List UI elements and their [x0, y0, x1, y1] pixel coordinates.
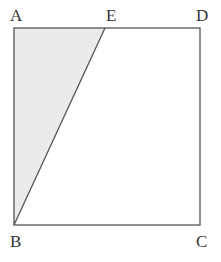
- vertex-label-c: C: [196, 233, 207, 250]
- geometry-figure: A E D B C: [0, 0, 221, 262]
- figure-canvas: [0, 0, 221, 262]
- vertex-label-e: E: [106, 7, 116, 24]
- vertex-label-d: D: [196, 7, 208, 24]
- vertex-label-a: A: [10, 7, 22, 24]
- vertex-label-b: B: [10, 233, 21, 250]
